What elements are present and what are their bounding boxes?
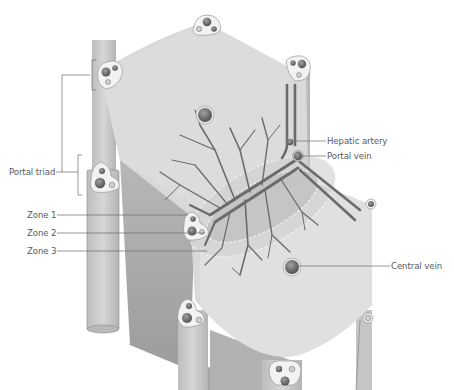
label-zone-3: Zone 3 — [27, 247, 56, 256]
label-central-vein: Central vein — [391, 262, 442, 271]
label-zone-1: Zone 1 — [27, 211, 56, 220]
liver-lobule-diagram — [0, 0, 454, 390]
triad-bottom — [269, 361, 301, 386]
label-zone-2: Zone 2 — [27, 229, 56, 238]
label-portal-triad: Portal triad — [9, 168, 55, 177]
triad-right-edge — [363, 313, 373, 323]
label-hepatic-artery: Hepatic artery — [327, 137, 387, 146]
triad-right-top — [366, 199, 376, 209]
label-portal-vein: Portal vein — [327, 152, 372, 161]
triad-top — [193, 15, 221, 35]
